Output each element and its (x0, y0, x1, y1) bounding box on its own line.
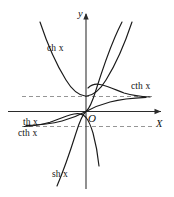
label-th-x: th x (23, 118, 38, 128)
label-sh-x: sh x (52, 170, 68, 180)
origin-label: O (88, 113, 96, 124)
hyperbolic-functions-figure: y X O ch x cth x th x cth x sh x (0, 0, 174, 197)
label-cth-x-left: cth x (18, 129, 37, 139)
x-axis-arrow-icon (155, 109, 162, 115)
x-axis-label: X (156, 119, 162, 130)
label-ch-x: ch x (47, 44, 64, 54)
plot-canvas (0, 0, 174, 197)
y-axis-label: y (78, 9, 83, 20)
label-cth-x-right: cth x (131, 82, 150, 92)
curve-sh-x (57, 22, 122, 186)
y-axis-arrow-icon (83, 13, 88, 20)
